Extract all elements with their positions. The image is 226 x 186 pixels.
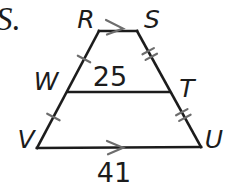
vertex-label-W: W — [34, 67, 60, 96]
vertex-label-U: U — [205, 125, 223, 154]
vertex-label-V: V — [17, 125, 36, 154]
vertex-label-R: R — [77, 5, 94, 34]
midsegment-length-label: 25 — [93, 61, 127, 92]
geometry-problem-figure: S. R S W T V U 25 4 — [0, 0, 226, 186]
base-length-label: 41 — [97, 157, 131, 186]
parallel-arrow-RS — [106, 20, 123, 35]
vertex-label-T: T — [179, 74, 196, 103]
trapezoid-midsegment-diagram: R S W T V U 25 41 — [0, 0, 226, 186]
vertex-label-S: S — [144, 5, 160, 34]
